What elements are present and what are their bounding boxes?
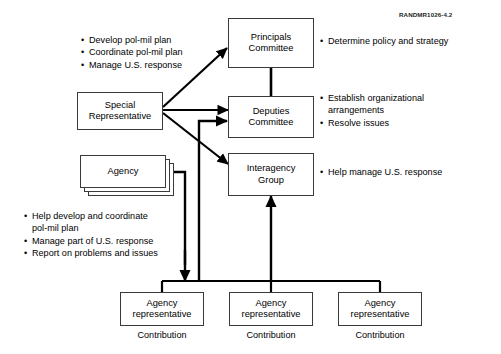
node-principals-line2: Committee xyxy=(249,43,294,54)
bullet-item: • Help manage U.S. response xyxy=(320,166,442,178)
bullet-text: Develop pol-mil plan xyxy=(89,35,171,45)
node-agency-representative-1[interactable]: Agency representative xyxy=(120,292,204,326)
bullets-principals-duties: • Determine policy and strategy xyxy=(320,35,448,47)
node-agency-representative-2[interactable]: Agency representative xyxy=(229,292,313,326)
bullet-text: Manage U.S. response xyxy=(89,60,182,70)
bullet-item: • Manage U.S. response xyxy=(81,59,183,71)
bullet-text: Help manage U.S. response xyxy=(328,167,442,177)
bullet-text: Determine policy and strategy xyxy=(328,36,448,46)
node-interagency-line2: Group xyxy=(247,175,296,186)
bullets-interagency-duties: • Help manage U.S. response xyxy=(320,166,442,178)
bullet-text: Help develop and coordinate xyxy=(32,211,148,221)
node-agency-rep-1-line2: representative xyxy=(133,309,192,320)
node-agency-representative-3[interactable]: Agency representative xyxy=(338,292,422,326)
bullet-item: • Coordinate pol-mil plan xyxy=(81,46,183,58)
node-specialrep-line1: Special xyxy=(89,100,152,111)
bullet-text: Resolve issues xyxy=(328,118,389,128)
node-agency-line1: Agency xyxy=(107,166,138,177)
bullet-dot-icon: • xyxy=(81,46,84,58)
bullet-item: • Report on problems and issues xyxy=(24,247,158,259)
node-deputies-committee[interactable]: Deputies Committee xyxy=(228,96,314,138)
node-agency-rep-3-line1: Agency xyxy=(351,298,410,309)
bullet-dot-icon: • xyxy=(81,34,84,46)
node-deputies-line1: Deputies xyxy=(249,106,294,117)
bullets-agency-duties: • Help develop and coordinate pol-mil pl… xyxy=(24,210,158,259)
node-agency-rep-2-line2: representative xyxy=(242,309,301,320)
bullet-text: Report on problems and issues xyxy=(32,248,158,258)
bullet-dot-icon: • xyxy=(320,117,323,129)
bullet-text: Coordinate pol-mil plan xyxy=(89,47,183,57)
node-deputies-line2: Committee xyxy=(249,117,294,128)
bullet-dot-icon: • xyxy=(24,210,27,222)
caption-contribution-2: Contribution xyxy=(229,330,313,340)
node-principals-committee[interactable]: Principals Committee xyxy=(228,18,314,68)
bullet-dot-icon: • xyxy=(81,59,84,71)
bullets-special-rep-duties: • Develop pol-mil plan • Coordinate pol-… xyxy=(81,34,183,71)
bullets-deputies-duties: • Establish organizational arrangements … xyxy=(320,92,424,129)
caption-contribution-1: Contribution xyxy=(120,330,204,340)
node-agency-rep-3-line2: representative xyxy=(351,309,410,320)
bullet-dot-icon: • xyxy=(24,247,27,259)
bullet-dot-icon: • xyxy=(320,166,323,178)
bullet-dot-icon: • xyxy=(24,235,27,247)
bullet-item: • Manage part of U.S. response xyxy=(24,235,158,247)
node-principals-line1: Principals xyxy=(249,32,294,43)
node-agency-rep-1-line1: Agency xyxy=(133,298,192,309)
bullet-item: • Resolve issues xyxy=(320,117,424,129)
bullet-item: • Establish organizational xyxy=(320,92,424,104)
bullet-dot-icon: • xyxy=(320,35,323,47)
caption-contribution-3: Contribution xyxy=(338,330,422,340)
node-agency[interactable]: Agency xyxy=(80,155,166,188)
bullet-text: Manage part of U.S. response xyxy=(32,236,153,246)
bullet-text: Establish organizational xyxy=(328,93,424,103)
bullet-item: • Help develop and coordinate xyxy=(24,210,158,222)
bullet-item: • Determine policy and strategy xyxy=(320,35,448,47)
node-agency-rep-2-line1: Agency xyxy=(242,298,301,309)
bullet-dot-icon: • xyxy=(320,92,323,104)
bullet-item: • Develop pol-mil plan xyxy=(81,34,183,46)
node-special-representative[interactable]: Special Representative xyxy=(77,92,163,130)
node-interagency-group[interactable]: Interagency Group xyxy=(228,153,314,196)
bullet-text-continuation: pol-mil plan xyxy=(24,222,158,234)
node-interagency-line1: Interagency xyxy=(247,163,296,174)
diagram-canvas: RANDMR1026-4.2 xyxy=(0,0,501,354)
node-specialrep-line2: Representative xyxy=(89,111,152,122)
bullet-text-continuation: arrangements xyxy=(320,104,424,116)
